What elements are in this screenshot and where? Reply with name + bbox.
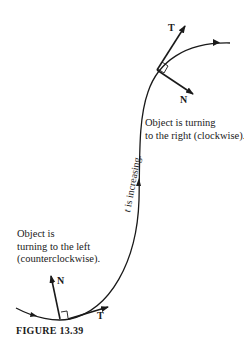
- bottom-tangent-label: T: [97, 310, 104, 321]
- curve-diagram: [0, 0, 244, 337]
- curve-path: [16, 43, 230, 320]
- right-turn-annotation: Object is turning to the right (clockwis…: [145, 117, 244, 142]
- bottom-right-angle-mark: [61, 311, 68, 318]
- bottom-normal-label: N: [57, 275, 64, 286]
- figure-caption: FIGURE 13.39: [16, 325, 84, 336]
- top-tangent-label: T: [168, 22, 175, 33]
- top-normal-label: N: [180, 94, 187, 105]
- left-turn-annotation: Object is turning to the left (countercl…: [17, 228, 100, 266]
- curve-direction-arrow-top: [213, 39, 220, 46]
- top-normal-vector: [157, 70, 193, 94]
